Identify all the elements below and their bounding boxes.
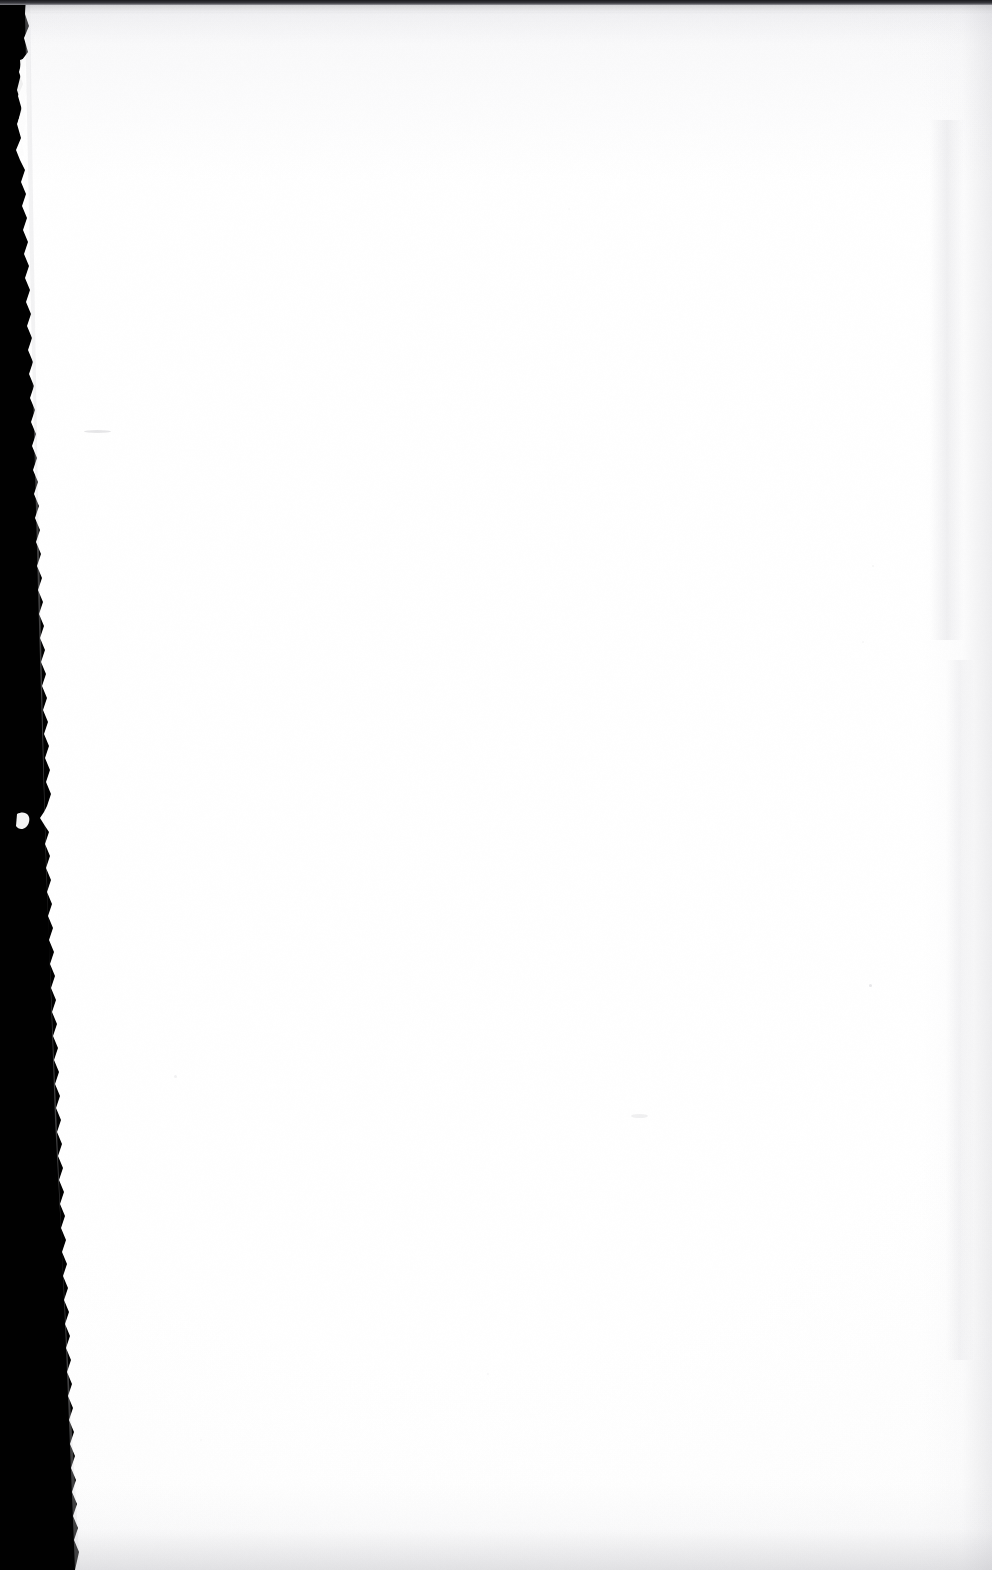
scan-top-rule-falloff <box>26 5 992 14</box>
page-text-content <box>120 120 880 1420</box>
scanned-page-canvas <box>0 0 992 1570</box>
left-torn-edge <box>0 0 120 1570</box>
